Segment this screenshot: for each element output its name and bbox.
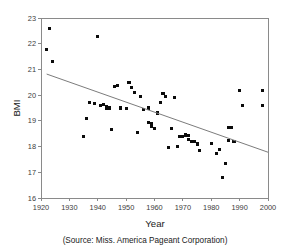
data-point	[193, 140, 196, 143]
data-point	[261, 89, 264, 92]
data-point	[181, 135, 184, 138]
bmi-year-scatter-figure: 1617181920212223 19201930194019501960197…	[0, 0, 282, 251]
x-tick-label: 1990	[231, 203, 247, 212]
data-point	[161, 92, 164, 95]
data-point	[130, 86, 133, 89]
x-axis-ticks: 192019301940195019601970198019902000	[33, 198, 276, 212]
data-point	[167, 146, 170, 149]
data-point	[85, 117, 88, 120]
scatter-plot-svg: 1617181920212223 19201930194019501960197…	[0, 0, 282, 251]
data-point	[136, 131, 139, 134]
data-point	[147, 106, 150, 109]
x-tick-label: 1930	[61, 203, 77, 212]
y-tick-label: 16	[28, 194, 36, 203]
x-tick-label: 2000	[260, 203, 276, 212]
x-tick-label: 1980	[203, 203, 219, 212]
data-point	[110, 128, 113, 131]
data-point	[113, 85, 116, 88]
data-point	[93, 102, 96, 105]
data-point	[48, 27, 51, 30]
data-point	[153, 127, 156, 130]
data-point	[238, 89, 241, 92]
y-tick-label: 21	[28, 65, 36, 74]
data-point	[88, 101, 91, 104]
data-point	[96, 35, 99, 38]
data-point	[176, 145, 179, 148]
y-tick-label: 17	[28, 168, 36, 177]
data-point	[187, 134, 190, 137]
data-point	[196, 142, 199, 145]
data-point	[230, 126, 233, 129]
x-tick-label: 1920	[33, 203, 49, 212]
data-point	[221, 176, 224, 179]
data-point	[170, 127, 173, 130]
plot-frame	[41, 18, 268, 198]
data-point	[116, 84, 119, 87]
data-point	[173, 96, 176, 99]
trend-line-group	[47, 74, 268, 152]
y-tick-label: 23	[28, 14, 36, 23]
y-tick-label: 18	[28, 142, 36, 151]
data-point	[150, 124, 153, 127]
x-tick-label: 1960	[146, 203, 162, 212]
data-point	[198, 149, 201, 152]
source-caption: (Source: Miss. America Pageant Corporati…	[63, 236, 228, 245]
data-point	[190, 140, 193, 143]
data-point	[210, 142, 213, 145]
data-point	[215, 152, 218, 155]
y-tick-label: 22	[28, 39, 36, 48]
data-point	[187, 138, 190, 141]
data-point	[127, 81, 130, 84]
data-point	[184, 133, 187, 136]
data-point	[102, 103, 105, 106]
data-point	[119, 106, 122, 109]
data-point	[105, 106, 108, 109]
data-point	[159, 101, 162, 104]
data-point	[125, 107, 128, 110]
data-point	[45, 48, 48, 51]
y-tick-label: 20	[28, 91, 36, 100]
data-point	[139, 95, 142, 98]
data-point	[164, 95, 167, 98]
y-axis-title: BMI	[11, 99, 22, 116]
y-axis-ticks: 1617181920212223	[28, 14, 41, 203]
data-point	[51, 60, 54, 63]
data-point	[218, 148, 221, 151]
data-point	[224, 162, 227, 165]
data-point	[147, 121, 150, 124]
data-point	[133, 91, 136, 94]
x-tick-label: 1970	[175, 203, 191, 212]
x-tick-label: 1940	[90, 203, 106, 212]
data-point	[108, 107, 111, 110]
data-point	[99, 104, 102, 107]
data-point	[261, 104, 264, 107]
data-point	[82, 135, 85, 138]
data-points-layer	[45, 27, 264, 179]
y-tick-label: 19	[28, 116, 36, 125]
data-point	[241, 104, 244, 107]
x-axis-title: Year	[145, 218, 165, 229]
data-point	[227, 139, 230, 142]
data-point	[178, 135, 181, 138]
x-tick-label: 1950	[118, 203, 134, 212]
data-point	[227, 126, 230, 129]
